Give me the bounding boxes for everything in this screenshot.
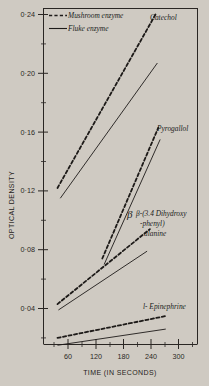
optical-density-vs-time-chart: 0·24 0·20 0·16 0·12 0·08 0·04 OPTICAL DE… [0,0,209,386]
y-tick-labels: 0·24 0·20 0·16 0·12 0·08 0·04 [21,10,35,313]
x-tick-label: 120 [90,352,102,361]
y-tick-label: 0·20 [21,69,35,78]
annotation-dopa-line1: β-(3.4 Dihydroxy [135,209,187,218]
data-series-layer [58,15,167,346]
x-tick-labels: 60 120 180 240 300 [64,352,185,361]
series-line [58,316,167,338]
y-tick-label: 0·16 [21,128,35,137]
y-axis-label: OPTICAL DENSITY [8,171,15,239]
annotation-catechol: Catechol [150,13,177,22]
legend-label-mushroom: Mushroom enzyme [67,11,124,20]
chart-legend: Mushroom enzyme Fluke enzyme [49,11,124,33]
annotation-epinephrine: l- Epinephrine [143,302,187,311]
x-tick-label: 240 [145,352,157,361]
series-line [102,128,158,259]
x-axis-label: TIME (IN SECONDS) [83,369,157,377]
series-line [58,329,166,345]
annotation-dopa-line3: alanine [144,229,167,238]
x-tick-label: 60 [64,352,72,361]
series-line [58,229,150,304]
series-line [58,15,156,188]
series-line [58,251,147,310]
y-tick-label: 0·04 [21,304,35,313]
plot-frame [44,8,198,345]
legend-label-fluke: Fluke enzyme [67,24,109,33]
y-tick-label: 0·08 [21,245,35,254]
x-tick-label: 180 [118,352,130,361]
y-tick-label: 0·24 [21,10,35,19]
annotation-dopa-line2: -phenyl) [140,219,165,228]
annotation-pyrogallol: Pyrogallol [156,124,188,133]
y-tick-label: 0·12 [21,186,35,195]
annotation-dopa-beta-symbol: β [126,208,133,220]
x-tick-label: 300 [173,352,185,361]
series-line [104,139,160,264]
curve-annotations: Catechol Pyrogallol β β-(3.4 Dihydroxy -… [126,13,188,311]
figure-container: 0·24 0·20 0·16 0·12 0·08 0·04 OPTICAL DE… [0,0,209,386]
